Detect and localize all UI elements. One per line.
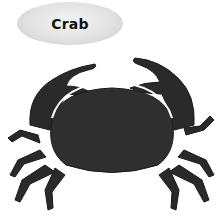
crab-image	[0, 50, 224, 215]
label-text: Crab	[51, 16, 88, 32]
name-label-ellipse: Crab	[17, 2, 123, 45]
